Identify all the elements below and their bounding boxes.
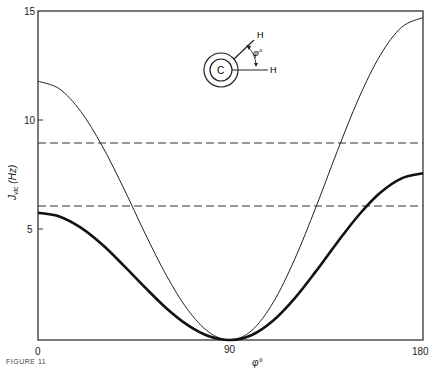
chart: 15 10 5 Jvic (Hz) 0 90 180 φ° C H H φ° <box>0 0 436 368</box>
figure-caption: FIGURE 11 <box>6 358 46 365</box>
x-axis-label: φ° <box>252 357 263 368</box>
y-tick-10: 10 <box>24 115 36 126</box>
inset-angle-label: φ° <box>253 48 263 58</box>
y-axis-label: Jvic (Hz) <box>7 165 19 201</box>
thick-curve <box>38 173 423 340</box>
inset-diagram: C H H φ° <box>204 30 277 87</box>
x-tick-90: 90 <box>224 344 236 355</box>
y-tick-5: 5 <box>27 224 33 235</box>
x-axis: 0 90 180 φ° <box>35 344 429 368</box>
thin-curve <box>38 18 423 340</box>
plot-frame <box>38 11 423 340</box>
inset-h-upper: H <box>257 30 264 40</box>
inset-center-label: C <box>217 65 224 76</box>
inset-h-right: H <box>270 65 277 75</box>
x-tick-180: 180 <box>412 346 429 357</box>
y-tick-15: 15 <box>24 6 36 17</box>
x-tick-0: 0 <box>35 346 41 357</box>
